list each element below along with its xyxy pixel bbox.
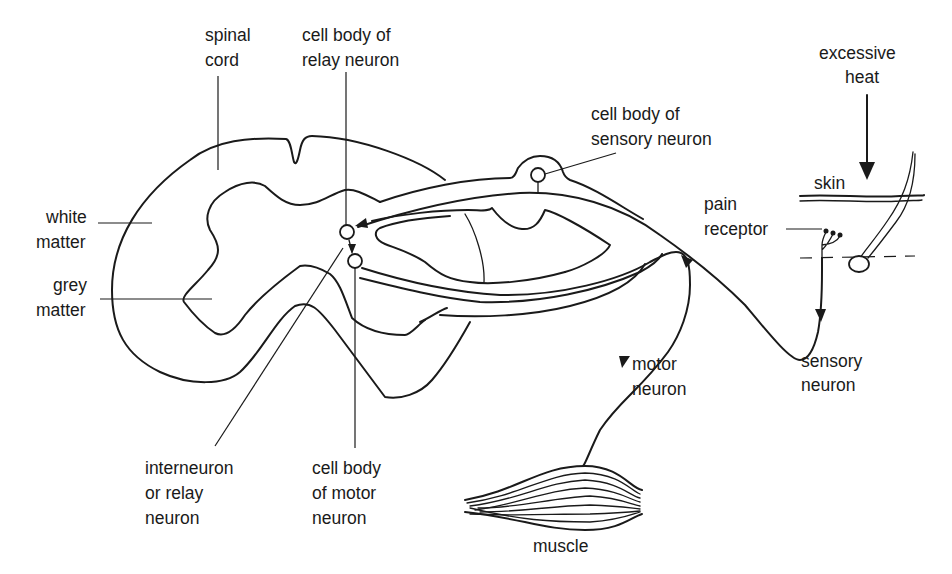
label-cell-body-motor: cell body of motor neuron: [312, 458, 381, 528]
svg-text:relay neuron: relay neuron: [302, 50, 399, 70]
root-junction-lumen: [376, 216, 565, 283]
sensory-neuron-cell-body: [531, 168, 545, 182]
label-motor-neuron: motor neuron: [632, 354, 687, 399]
svg-text:matter: matter: [36, 300, 86, 320]
svg-text:white: white: [45, 207, 87, 227]
label-cell-body-sensory: cell body of sensory neuron: [591, 104, 712, 149]
svg-text:matter: matter: [36, 232, 86, 252]
svg-text:grey: grey: [53, 275, 87, 295]
skin-surface-line: [800, 195, 924, 197]
muscle-icon: [465, 466, 642, 530]
svg-text:neuron: neuron: [145, 508, 200, 528]
svg-text:heat: heat: [845, 67, 879, 87]
sensory-arrow-lower-icon: [815, 309, 826, 322]
svg-text:neuron: neuron: [801, 375, 856, 395]
svg-text:cell body: cell body: [312, 458, 381, 478]
motor-arrow-icon: [619, 356, 630, 368]
svg-text:sensory neuron: sensory neuron: [591, 129, 712, 149]
heat-arrow-icon: [859, 162, 875, 180]
label-cell-body-relay: cell body of relay neuron: [302, 25, 399, 70]
leader-interneuron: [215, 248, 343, 446]
label-muscle: muscle: [533, 536, 588, 556]
svg-text:sensory: sensory: [801, 351, 863, 371]
svg-text:or relay: or relay: [145, 483, 204, 503]
svg-text:of motor: of motor: [312, 483, 376, 503]
svg-text:pain: pain: [704, 194, 737, 214]
svg-text:motor: motor: [632, 354, 677, 374]
arrow-into-relay-icon: [355, 218, 368, 228]
svg-text:receptor: receptor: [704, 219, 768, 239]
svg-text:cell body of: cell body of: [591, 104, 680, 124]
label-spinal-cord: spinal cord: [205, 25, 251, 70]
receptor-ending-2: [831, 231, 836, 236]
label-skin: skin: [814, 173, 845, 193]
svg-text:cord: cord: [205, 50, 239, 70]
svg-text:interneuron: interneuron: [145, 458, 234, 478]
label-pain-receptor: pain receptor: [704, 194, 768, 239]
label-sensory-neuron: sensory neuron: [801, 351, 863, 395]
skin-surface-line-lower: [800, 200, 922, 202]
label-interneuron: interneuron or relay neuron: [145, 458, 234, 528]
lumen-divider: [465, 214, 484, 282]
svg-text:spinal: spinal: [205, 25, 251, 45]
hair-follicle-bulb: [849, 256, 869, 272]
ventral-root-inner-edge: [440, 264, 645, 316]
hair-shaft-inner: [868, 154, 915, 258]
leader-sensory-cell-body: [545, 153, 616, 174]
receptor-ending-1: [824, 229, 829, 234]
spinal-cord-outline: [112, 136, 470, 398]
svg-text:neuron: neuron: [312, 508, 367, 528]
pain-receptor-endings: [822, 232, 840, 258]
motor-neuron-cell-body: [348, 254, 362, 268]
receptor-ending-3: [838, 233, 843, 238]
dorsal-root-inner-edge: [372, 208, 610, 272]
svg-text:cell body of: cell body of: [302, 25, 391, 45]
relay-neuron-cell-body: [340, 225, 354, 239]
svg-text:neuron: neuron: [632, 379, 687, 399]
label-excessive-heat: excessive heat: [819, 43, 896, 87]
label-grey-matter: grey matter: [36, 275, 87, 320]
reflex-arc-diagram: spinal cord cell body of relay neuron ce…: [0, 0, 952, 574]
svg-text:excessive: excessive: [819, 43, 896, 63]
grey-matter-outline: [183, 183, 425, 335]
label-white-matter: white matter: [36, 207, 87, 252]
